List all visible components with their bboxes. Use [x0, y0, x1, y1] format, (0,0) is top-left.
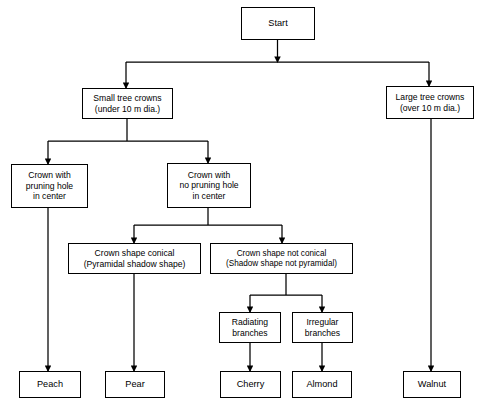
node-crown-shape-conical[interactable]: Crown shape conical (Pyramidal shadow sh…: [68, 243, 201, 274]
node-cherry[interactable]: Cherry: [220, 371, 281, 398]
node-peach[interactable]: Peach: [19, 371, 81, 398]
node-almond[interactable]: Almond: [292, 371, 352, 398]
node-crown-no-pruning-hole[interactable]: Crown with no pruning hole in center: [167, 163, 251, 208]
node-irregular-branches-label: Irregular branches: [303, 317, 342, 338]
node-pear[interactable]: Pear: [105, 371, 165, 398]
node-irregular-branches[interactable]: Irregular branches: [292, 312, 353, 343]
node-radiating-branches-label: Radiating branches: [230, 317, 270, 338]
node-radiating-branches[interactable]: Radiating branches: [219, 312, 281, 343]
node-walnut-label: Walnut: [416, 379, 448, 390]
node-crown-with-pruning-hole[interactable]: Crown with pruning hole in center: [11, 164, 88, 208]
node-start-label: Start: [266, 18, 289, 29]
node-small-tree-crowns[interactable]: Small tree crowns (under 10 m dia.): [82, 88, 173, 119]
node-small-tree-crowns-label: Small tree crowns (under 10 m dia.): [91, 93, 163, 114]
node-large-tree-crowns-label: Large tree crowns (over 10 m dia.): [394, 92, 467, 113]
node-large-tree-crowns[interactable]: Large tree crowns (over 10 m dia.): [386, 86, 474, 119]
node-cherry-label: Cherry: [235, 379, 267, 390]
node-walnut[interactable]: Walnut: [403, 371, 461, 398]
node-crown-no-pruning-hole-label: Crown with no pruning hole in center: [177, 170, 240, 201]
node-crown-shape-not-conical[interactable]: Crown shape not conical (Shadow shape no…: [210, 243, 353, 274]
node-pear-label: Pear: [123, 379, 146, 390]
node-crown-with-pruning-hole-label: Crown with pruning hole in center: [24, 170, 75, 201]
flowchart-canvas: Start Small tree crowns (under 10 m dia.…: [0, 0, 482, 404]
node-crown-shape-conical-label: Crown shape conical (Pyramidal shadow sh…: [82, 248, 188, 269]
node-almond-label: Almond: [304, 379, 339, 390]
node-crown-shape-not-conical-label: Crown shape not conical (Shadow shape no…: [224, 249, 339, 269]
node-peach-label: Peach: [35, 379, 65, 390]
node-start[interactable]: Start: [241, 7, 315, 40]
